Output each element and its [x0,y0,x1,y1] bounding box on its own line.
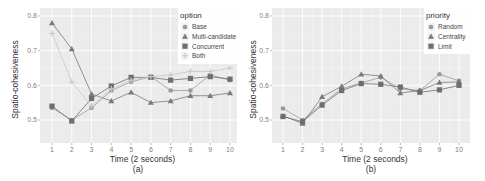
data-point-square-icon [398,84,403,89]
x-tick-label: 5 [129,146,133,153]
legend-item-label: Both [192,52,206,59]
x-tick-label: 2 [70,146,74,153]
legend-circle-icon [429,25,434,30]
x-tick-label: 9 [437,146,441,153]
legend: optionBaseMulti-candidateConcurrentBoth [178,7,245,64]
y-axis-label: Spatio-cohesiveness [10,40,20,118]
figure: 0.50.60.70.812345678910Spatio-cohesivene… [0,0,485,181]
data-point-circle-icon [168,88,173,93]
x-axis-label: Time (2 seconds) [342,154,408,164]
chart-panel-b: 0.50.60.70.812345678910Spatio-cohesivene… [248,7,485,174]
chart-panel-a: 0.50.60.70.812345678910Spatio-cohesivene… [10,7,245,174]
data-point-square-icon [208,74,213,79]
x-tick-label: 6 [149,146,153,153]
data-point-square-icon [320,102,325,107]
data-point-circle-icon [437,72,442,77]
x-tick-label: 3 [90,146,94,153]
subfigure-label: (a) [133,164,144,174]
x-tick-label: 4 [340,146,344,153]
legend-item-label: Concurrent [192,43,224,50]
x-axis-label: Time (2 seconds) [110,154,176,164]
y-tick-label: 0.7 [259,47,269,54]
y-tick-label: 0.5 [27,116,37,123]
data-point-square-icon [437,87,442,92]
x-tick-label: 1 [281,146,285,153]
x-tick-label: 7 [169,146,173,153]
legend-title: option [180,11,202,20]
chart-figure: 0.50.60.70.812345678910Spatio-cohesivene… [0,0,485,181]
data-point-square-icon [378,82,383,87]
legend: priorityRandomCentralityLimit [424,7,485,54]
legend-item-label: Multi-candidate [192,33,236,40]
data-point-square-icon [359,81,364,86]
x-tick-label: 1 [50,146,54,153]
data-point-circle-icon [188,88,193,93]
x-tick-label: 10 [455,146,463,153]
subfigure-label: (b) [366,164,377,174]
x-tick-label: 9 [208,146,212,153]
x-tick-label: 7 [398,146,402,153]
x-tick-label: 8 [188,146,192,153]
x-tick-label: 6 [379,146,383,153]
y-tick-label: 0.5 [259,116,269,123]
data-point-square-icon [456,83,461,88]
y-tick-label: 0.6 [259,82,269,89]
x-tick-label: 4 [109,146,113,153]
x-tick-label: 8 [418,146,422,153]
legend-circle-icon [183,25,188,30]
x-tick-label: 10 [226,146,234,153]
data-point-square-icon [300,119,305,124]
data-point-circle-icon [281,106,286,111]
x-tick-label: 3 [320,146,324,153]
data-point-square-icon [227,76,232,81]
legend-square-icon [182,44,187,49]
legend-item-label: Centrality [438,33,466,41]
x-tick-label: 2 [301,146,305,153]
data-point-square-icon [89,96,94,101]
data-point-square-icon [417,90,422,95]
y-tick-label: 0.7 [27,47,37,54]
data-point-square-icon [69,118,74,123]
legend-item-label: Base [192,23,207,30]
y-tick-label: 0.8 [27,12,37,19]
data-point-square-icon [188,76,193,81]
data-point-square-icon [49,104,54,109]
legend-item-label: Random [438,23,463,30]
y-axis-label: Spatio-cohesiveness [248,40,258,118]
y-tick-label: 0.8 [259,12,269,19]
data-point-square-icon [280,114,285,119]
legend-item-label: Limit [438,43,452,50]
legend-square-icon [428,44,433,49]
data-point-square-icon [339,88,344,93]
legend-title: priority [426,11,450,20]
y-tick-label: 0.6 [27,82,37,89]
data-point-square-icon [168,78,173,83]
x-tick-label: 5 [359,146,363,153]
